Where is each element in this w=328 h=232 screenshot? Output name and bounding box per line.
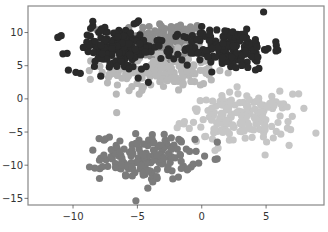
y-tick-label: 5 — [17, 60, 23, 71]
x-tick-label: −10 — [62, 211, 83, 222]
y-tick-label: 10 — [10, 27, 23, 38]
y-tick-label: −15 — [2, 193, 23, 204]
y-tick-label: −10 — [2, 160, 23, 171]
x-tick-label: 0 — [199, 211, 205, 222]
x-axis: −10−505 — [62, 205, 269, 222]
x-tick-label: −5 — [130, 211, 145, 222]
scatter-points — [54, 8, 319, 204]
y-axis: 1050−5−10−15 — [2, 27, 28, 204]
x-tick-label: 5 — [263, 211, 269, 222]
scatter-chart: −10−505 1050−5−10−15 — [0, 0, 328, 232]
y-tick-label: −5 — [8, 127, 23, 138]
y-tick-label: 0 — [17, 93, 23, 104]
series-cluster-right-light — [174, 83, 320, 158]
series-cluster-bottom — [86, 130, 221, 204]
